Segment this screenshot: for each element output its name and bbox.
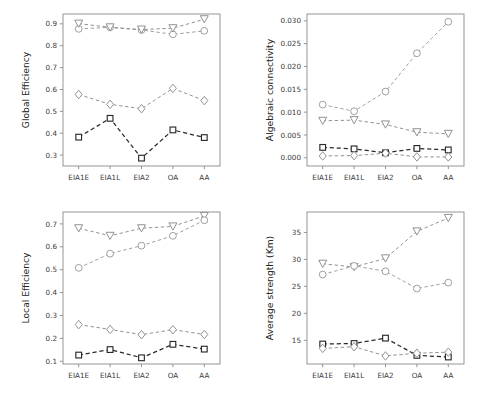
x-tick-label-eia1l: EIA1L [344, 371, 364, 380]
y-tick-label: 0.6 [46, 242, 58, 251]
data-point-triangle-down [444, 214, 452, 221]
y-tick-label: 0.5 [46, 265, 57, 274]
data-point-diamond [169, 325, 176, 334]
data-point-circle [201, 27, 208, 34]
y-tick-label: 0.8 [46, 41, 58, 50]
data-point-circle [319, 101, 326, 108]
y-tick-label: 0.015 [280, 85, 301, 94]
y-tick-label: 0.1 [46, 357, 57, 366]
x-tick-label-eia1e: EIA1E [68, 371, 89, 380]
series-triangle-down [75, 16, 209, 33]
x-tick-label-eia1l: EIA1L [100, 371, 120, 380]
data-point-circle [138, 242, 145, 249]
data-point-diamond [382, 352, 389, 361]
data-point-circle [169, 232, 176, 239]
series-line [323, 22, 449, 111]
y-tick-label: 0.7 [46, 63, 57, 72]
data-point-circle [75, 264, 82, 271]
data-point-circle [382, 88, 389, 95]
series-triangle-down [319, 117, 453, 138]
y-axis-title: Average strength (Km) [264, 236, 275, 340]
y-tick-label: 0.030 [280, 16, 301, 25]
y-tick-label: 0.3 [46, 151, 57, 160]
data-point-diamond [201, 330, 208, 339]
series-circle [319, 262, 451, 291]
series-circle [319, 18, 451, 114]
data-point-diamond [107, 325, 114, 334]
data-point-triangle-down [413, 228, 421, 235]
data-point-circle [445, 18, 452, 25]
y-axis-title: Local Efficiency [20, 252, 31, 324]
data-point-square [139, 155, 145, 161]
data-point-diamond [201, 96, 208, 105]
x-tick-label-aa: AA [199, 173, 209, 182]
data-point-circle [319, 271, 326, 278]
series-triangle-down [319, 214, 453, 270]
x-tick-label-eia2: EIA2 [133, 371, 149, 380]
y-tick-label: 0.025 [280, 39, 301, 48]
series-diamond [319, 149, 452, 161]
y-tick-label: 0.000 [280, 153, 301, 162]
data-point-triangle-down [444, 130, 452, 137]
x-tick-label-aa: AA [443, 371, 453, 380]
data-point-square [320, 145, 326, 151]
series-line [79, 118, 205, 158]
y-tick-label: 0.010 [280, 108, 301, 117]
y-tick-label: 0.4 [46, 129, 58, 138]
data-point-square [201, 135, 207, 141]
y-tick-label: 0.3 [46, 311, 57, 320]
y-tick-label: 25 [292, 282, 301, 291]
x-tick-label-oa: OA [168, 371, 179, 380]
plot-frame [63, 14, 220, 166]
x-tick-label-eia1e: EIA1E [312, 371, 333, 380]
data-point-triangle-down [382, 255, 390, 262]
series-square [76, 115, 207, 161]
data-point-triangle-down [75, 225, 83, 232]
data-point-circle [382, 268, 389, 275]
data-point-circle [107, 250, 114, 257]
chart-panel-algebraic-connectivity: 0.0000.0050.0100.0150.0200.0250.030EIA1E… [244, 0, 488, 198]
x-tick-label-eia2: EIA2 [377, 371, 393, 380]
data-point-square [170, 127, 176, 133]
series-triangle-down [75, 212, 209, 239]
data-point-square [76, 352, 82, 358]
y-tick-label: 0.020 [280, 62, 301, 71]
data-point-triangle-down [106, 232, 114, 239]
data-point-diamond [169, 84, 176, 93]
data-point-circle [413, 285, 420, 292]
y-axis-title: Global Efficiency [20, 51, 31, 128]
chart-panel-average-strength: 1520253035EIA1EEIA1LEIA2OAAAAverage stre… [244, 198, 488, 396]
chart-panel-global-efficiency: 0.30.40.50.60.70.80.9EIA1EEIA1LEIA2OAAAG… [0, 0, 244, 198]
data-point-circle [445, 279, 452, 286]
data-point-diamond [107, 100, 114, 109]
data-point-square [107, 347, 113, 353]
y-tick-label: 0.7 [46, 220, 57, 229]
series-diamond [75, 84, 208, 113]
data-point-diamond [138, 330, 145, 339]
x-tick-label-aa: AA [443, 173, 453, 182]
x-tick-label-eia1l: EIA1L [344, 173, 364, 182]
series-square [76, 341, 207, 360]
data-point-diamond [75, 90, 82, 99]
x-tick-label-aa: AA [199, 371, 209, 380]
x-tick-label-oa: OA [168, 173, 179, 182]
data-point-square [76, 134, 82, 140]
data-point-square [414, 146, 420, 152]
data-point-circle [201, 217, 208, 224]
data-point-square [170, 341, 176, 347]
data-point-diamond [138, 104, 145, 113]
y-tick-label: 0.005 [280, 131, 301, 140]
y-tick-label: 0.9 [46, 19, 58, 28]
x-tick-label-eia2: EIA2 [133, 173, 149, 182]
y-tick-label: 0.6 [46, 85, 58, 94]
series-diamond [319, 342, 452, 360]
data-point-diamond [445, 153, 452, 162]
y-tick-label: 30 [292, 255, 302, 264]
data-point-triangle-down [200, 16, 208, 23]
data-point-diamond [319, 152, 326, 161]
y-tick-label: 20 [292, 309, 302, 318]
x-tick-label-eia1e: EIA1E [68, 173, 89, 182]
x-tick-label-oa: OA [412, 371, 423, 380]
y-tick-label: 15 [292, 336, 301, 345]
figure-canvas: 0.30.40.50.60.70.80.9EIA1EEIA1LEIA2OAAAG… [0, 0, 488, 396]
